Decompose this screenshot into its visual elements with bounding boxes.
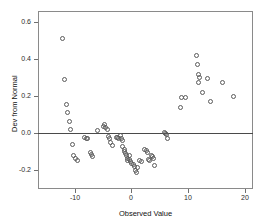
data-point [70,142,75,147]
x-tick-mark [188,189,189,193]
data-point [105,127,110,132]
x-tick-mark [75,189,76,193]
data-point [208,99,213,104]
data-point [120,138,125,143]
y-tick-label: 0.6 [0,18,31,26]
y-tick-mark [34,170,38,171]
x-axis-title: Observed Value [38,209,253,218]
data-point [183,95,188,100]
y-tick-mark [34,22,38,23]
data-point [151,156,156,161]
y-axis-title: Dev from Normal [10,75,19,132]
y-tick-label: -0.2 [0,166,31,174]
x-tick-mark [131,189,132,193]
data-point [75,158,80,163]
data-point [110,143,115,148]
data-point [195,62,200,67]
data-point [95,128,100,133]
y-tick-mark [34,59,38,60]
x-tick-label: 0 [116,194,146,202]
x-tick-label: -10 [60,194,90,202]
y-tick-label: 0.4 [0,55,31,63]
data-point [67,119,72,124]
data-point [220,80,225,85]
data-point [68,127,73,132]
data-point [152,163,157,168]
data-point [231,94,236,99]
plot-area-frame [38,11,253,189]
x-tick-label: 10 [173,194,203,202]
data-point [178,105,183,110]
data-point [200,90,205,95]
data-point [64,102,69,107]
data-point [135,165,140,170]
y-tick-mark [34,96,38,97]
y-tick-mark [34,133,38,134]
detrended-qq-scatter-chart: -0.20.00.20.40.6 -1001020 Dev from Norma… [0,0,259,223]
x-tick-mark [245,189,246,193]
data-point [134,170,139,175]
x-tick-label: 20 [230,194,259,202]
zero-reference-line [38,133,253,134]
